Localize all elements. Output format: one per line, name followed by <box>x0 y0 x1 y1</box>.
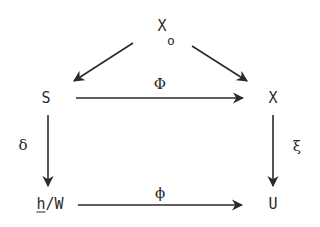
edge-phi-top-label: Φ <box>154 77 166 92</box>
commutative-diagram: X o S X h/W U Φ δ ξ ϕ <box>0 0 320 227</box>
node-hw-h: h <box>36 195 45 213</box>
node-x0-subscript: o <box>167 34 175 47</box>
arrow-x0-to-x <box>192 46 247 81</box>
node-hw-rest: /W <box>45 195 63 213</box>
edge-phi-bottom-label: ϕ <box>155 186 165 201</box>
edge-delta-label: δ <box>18 138 27 153</box>
node-x-label: X <box>268 91 277 106</box>
node-s-label: S <box>41 91 50 106</box>
node-x0-label: X <box>157 19 166 34</box>
edge-xi-label: ξ <box>293 139 301 154</box>
node-u-label: U <box>268 197 277 212</box>
arrow-x0-to-s <box>74 43 133 81</box>
node-hw-label: h/W <box>36 197 63 212</box>
